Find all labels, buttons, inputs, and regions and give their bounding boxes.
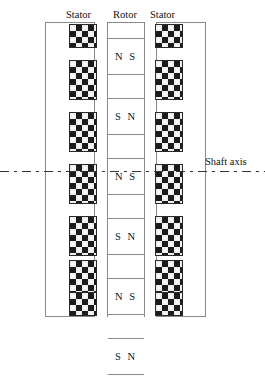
rotor-magnet-polarity-label: S N: [115, 231, 137, 242]
stator-right-coil-block: [155, 112, 183, 152]
stator-right-coil-block: [155, 292, 183, 316]
rotor-spacer-cell: [108, 255, 144, 279]
label-shaft-axis: Shaft axis: [205, 156, 247, 168]
rotor-magnet-polarity-label: S N: [115, 351, 137, 362]
rotor-magnet-cell: S N: [108, 219, 144, 255]
stator-left-coil-block: [69, 60, 97, 100]
label-stator-left: Stator: [66, 9, 91, 21]
label-rotor: Rotor: [113, 9, 137, 21]
rotor-magnet-polarity-label: S N: [115, 111, 137, 122]
shaft-axis-line: [0, 171, 265, 172]
rotor-spacer-cell: [108, 375, 144, 379]
rotor-magnet-cell: N S: [108, 39, 144, 75]
stator-left-coil-block: [69, 216, 97, 256]
rotor-column: N SS NN SS NN SS N: [107, 22, 145, 317]
label-stator-right: Stator: [150, 9, 175, 21]
stator-right-coil-block: [155, 164, 183, 204]
rotor-spacer-cell: [108, 195, 144, 219]
stator-right-coil-block: [155, 60, 183, 100]
rotor-spacer-cell: [108, 23, 144, 39]
stator-left-coil-block: [69, 164, 97, 204]
rotor-magnet-polarity-label: N S: [115, 51, 137, 62]
rotor-magnet-cell: S N: [108, 99, 144, 135]
rotor-magnet-cell: N S: [108, 159, 144, 195]
rotor-spacer-cell: [108, 315, 144, 339]
rotor-spacer-cell: [108, 135, 144, 159]
rotor-spacer-cell: [108, 75, 144, 99]
stator-left-coil-block: [69, 292, 97, 316]
stator-right-coil-block: [155, 24, 183, 48]
rotor-magnet-polarity-label: N S: [115, 291, 137, 302]
stator-left-coil-block: [69, 112, 97, 152]
rotor-magnet-cell: S N: [108, 339, 144, 375]
stator-right-coil-block: [155, 216, 183, 256]
rotor-magnet-polarity-label: N S: [115, 171, 137, 182]
stator-left-coil-block: [69, 24, 97, 48]
rotor-magnet-cell: N S: [108, 279, 144, 315]
